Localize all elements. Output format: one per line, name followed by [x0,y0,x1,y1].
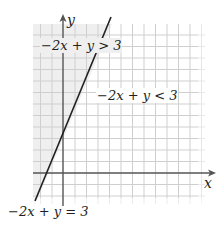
region-above-label: −2x + y > 3 [40,38,122,53]
boundary-label: −2x + y = 3 [8,204,88,219]
coordinate-plane [0,0,224,225]
y-axis-label: y [67,12,75,28]
region-below-label: −2x + y < 3 [96,88,178,103]
x-axis-label: x [204,175,212,191]
